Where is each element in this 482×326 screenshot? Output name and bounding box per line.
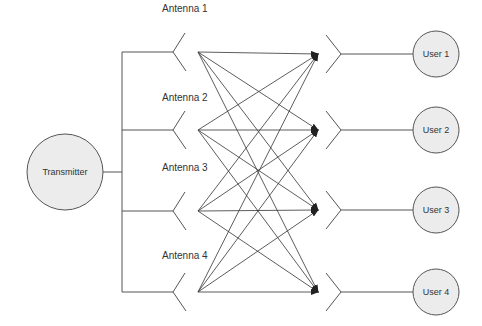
channel-arrow (198, 54, 318, 211)
antenna-label: Antenna 1 (162, 3, 208, 14)
antenna-label: Antenna 3 (162, 162, 208, 173)
rx-antenna-icon (326, 35, 341, 73)
antenna-label: Antenna 2 (162, 92, 208, 103)
user-label: User 1 (423, 49, 450, 59)
rx-antenna-icon (326, 191, 341, 229)
tx-antenna-icon (173, 111, 186, 149)
user-label: User 4 (423, 287, 450, 297)
nodes: Antenna 1Antenna 2Antenna 3Antenna 4User… (27, 3, 459, 315)
antenna-label: Antenna 4 (162, 250, 208, 261)
tx-antenna-icon (173, 273, 186, 311)
rx-antenna-icon (326, 273, 341, 311)
rx-antenna-icon (326, 111, 341, 149)
channel-links (198, 52, 318, 292)
tx-antenna-icon (173, 33, 186, 71)
tx-antenna-icon (173, 192, 186, 230)
transmitter-label: Transmitter (42, 167, 87, 177)
mimo-diagram: Antenna 1Antenna 2Antenna 3Antenna 4User… (0, 0, 482, 326)
user-label: User 2 (423, 125, 450, 135)
channel-arrow (198, 52, 318, 210)
channel-arrow (198, 52, 318, 54)
user-label: User 3 (423, 205, 450, 215)
